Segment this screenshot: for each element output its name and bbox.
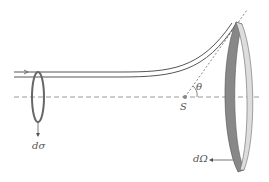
diagram-canvas bbox=[0, 0, 269, 182]
dsigma-label: dσ bbox=[32, 140, 45, 151]
arrow-icon bbox=[209, 158, 213, 162]
incoming-trajectory-upper bbox=[14, 23, 232, 72]
arrow-icon bbox=[36, 133, 40, 137]
scattering-center bbox=[183, 95, 187, 99]
incoming-trajectory-lower bbox=[14, 24, 236, 77]
center-label: S bbox=[180, 101, 187, 112]
domega-label: dΩ bbox=[193, 153, 208, 164]
theta-label: θ bbox=[196, 81, 202, 92]
scattering-diagram: dσ S θ dΩ bbox=[0, 0, 269, 182]
